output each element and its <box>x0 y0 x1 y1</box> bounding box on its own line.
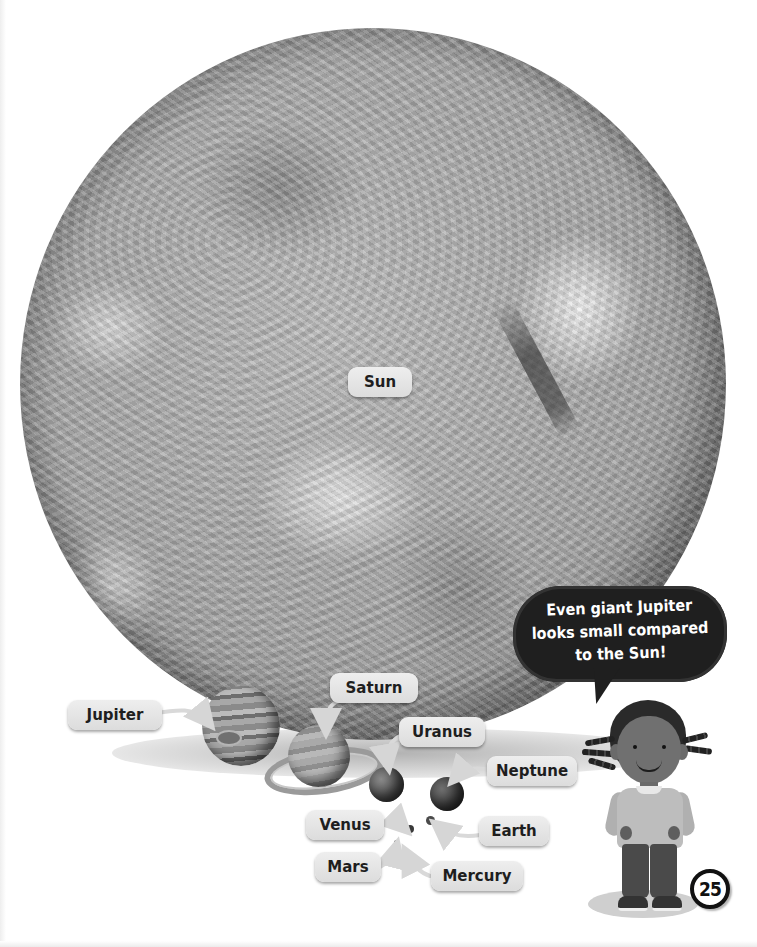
speech-bubble-text: Even giant Jupiter looks small compared … <box>512 592 728 668</box>
mars-arrow <box>380 848 396 867</box>
page-number-badge: 25 <box>690 869 730 909</box>
character-shoe-right <box>652 896 682 911</box>
jupiter-label: Jupiter <box>68 700 162 730</box>
character-pants-right <box>650 844 677 898</box>
earth-arrow <box>438 826 480 836</box>
neptune-planet <box>430 777 464 811</box>
character-shoe-left <box>618 896 648 911</box>
character-collar <box>636 786 662 794</box>
uranus-planet <box>369 767 404 802</box>
great-red-spot <box>216 730 242 746</box>
uranus-label: Uranus <box>399 717 485 747</box>
braid-right-2 <box>684 745 713 755</box>
character-face <box>617 716 681 784</box>
mercury-arrow <box>407 854 430 876</box>
page-left-edge <box>0 0 6 947</box>
mercury-label: Mercury <box>431 861 523 891</box>
earth-planet <box>426 816 435 825</box>
character-eye-right <box>662 745 666 749</box>
venus-label: Venus <box>306 810 384 840</box>
character-hand-right <box>668 826 680 840</box>
character-eye-left <box>633 745 637 749</box>
jupiter-planet <box>202 686 280 766</box>
page-bottom-edge <box>0 941 757 947</box>
venus-planet <box>406 825 414 833</box>
character-pants-left <box>622 844 649 898</box>
character-hand-left <box>620 826 632 840</box>
saturn-planet <box>288 725 350 787</box>
neptune-label: Neptune <box>487 756 577 786</box>
page-number: 25 <box>699 878 721 900</box>
mercury-planet <box>404 848 408 852</box>
mars-planet <box>394 840 399 845</box>
earth-label: Earth <box>479 816 549 846</box>
mars-label: Mars <box>315 852 381 882</box>
sun-label: Sun <box>348 367 412 397</box>
saturn-label: Saturn <box>330 673 418 703</box>
